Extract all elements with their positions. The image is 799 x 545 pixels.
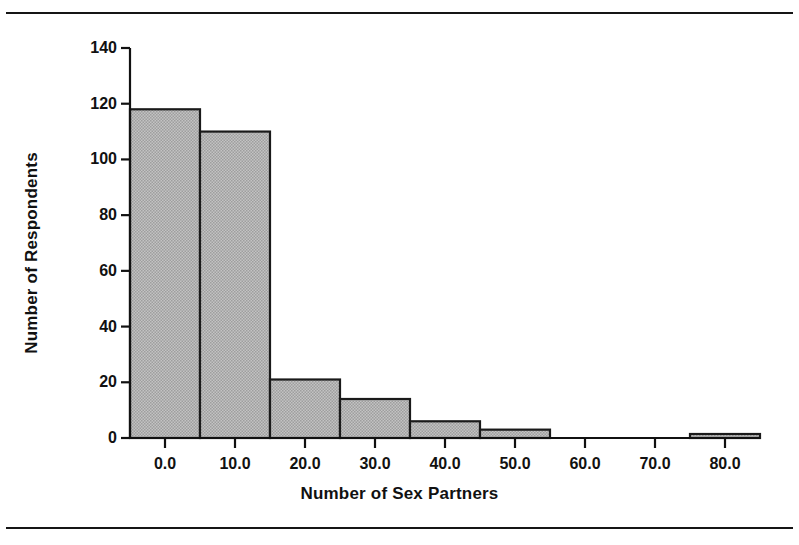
- y-axis-tick-label: 120: [55, 95, 117, 113]
- histogram-bar: [410, 421, 480, 438]
- histogram-bar: [480, 430, 550, 438]
- y-axis-tick-label: 0: [55, 429, 117, 447]
- x-axis-title: Number of Sex Partners: [0, 484, 799, 504]
- y-axis-title: Number of Respondents: [22, 103, 42, 403]
- histogram-bar: [340, 399, 410, 438]
- y-axis-tick-label: 60: [55, 262, 117, 280]
- x-axis-tick-label: 30.0: [359, 455, 390, 473]
- y-axis-tick-label: 40: [55, 318, 117, 336]
- y-axis-tick-label: 140: [55, 39, 117, 57]
- x-axis-tick-label: 0.0: [154, 455, 176, 473]
- x-axis-tick-label: 70.0: [639, 455, 670, 473]
- y-axis-tick-label: 80: [55, 206, 117, 224]
- histogram-bar: [200, 132, 270, 438]
- x-axis-tick-label: 10.0: [219, 455, 250, 473]
- x-axis-tick-label: 60.0: [569, 455, 600, 473]
- x-axis-tick-label: 80.0: [709, 455, 740, 473]
- histogram-bar: [130, 109, 200, 438]
- x-axis-tick-label: 40.0: [429, 455, 460, 473]
- x-axis-tick-label: 20.0: [289, 455, 320, 473]
- x-axis-tick-label: 50.0: [499, 455, 530, 473]
- y-axis-tick-label: 100: [55, 150, 117, 168]
- histogram-bar: [270, 380, 340, 439]
- bars-group: [130, 109, 760, 438]
- y-axis-tick-label: 20: [55, 373, 117, 391]
- histogram-svg: [0, 0, 799, 545]
- figure-root: 020406080100120140 0.010.020.030.040.050…: [0, 0, 799, 545]
- histogram-plot-area: 020406080100120140 0.010.020.030.040.050…: [0, 0, 799, 545]
